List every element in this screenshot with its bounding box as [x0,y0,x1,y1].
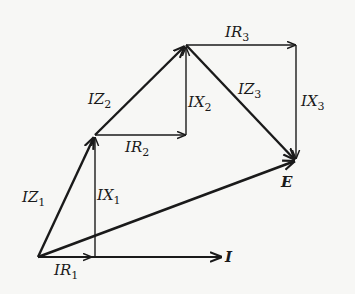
vector-IZ2 [95,46,185,135]
label-I: I [225,250,232,265]
label-IX3: IX3 [301,94,325,112]
label-IR2: IR2 [125,140,149,158]
label-IZ1: IZ1 [22,190,45,208]
label-E: E [281,175,292,190]
label-IR1: IR1 [54,263,78,281]
label-IX1: IX1 [97,188,121,206]
label-IZ2: IZ2 [88,92,111,110]
label-IR3: IR3 [225,25,249,43]
phasor-vectors [0,0,355,294]
label-IX2: IX2 [188,95,212,113]
label-IZ3: IZ3 [238,82,261,100]
phasor-diagram: IZ2 IR3 IX2 IZ3 IX3 IR2 IZ1 IX1 IR1 E I [0,0,355,294]
